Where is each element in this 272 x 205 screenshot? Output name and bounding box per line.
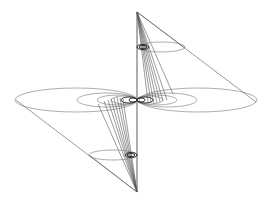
upper-small-ellipse (137, 42, 185, 52)
left-large-ellipse (15, 88, 137, 112)
left-nested-ellipses (77, 93, 137, 107)
diagram-svg (0, 0, 272, 205)
lower-small-ellipse (89, 150, 137, 160)
right-large-ellipse (139, 88, 257, 112)
double-cone-diagram (0, 0, 272, 205)
lower-cone-lines (16, 97, 137, 192)
upper-cone-lines (137, 12, 256, 104)
